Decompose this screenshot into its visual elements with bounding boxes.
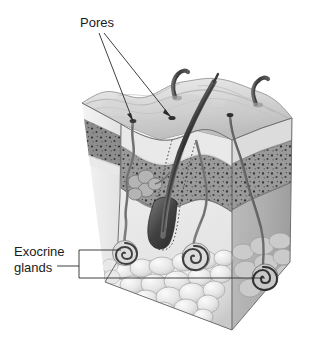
- exocrine-gland-left: [113, 241, 138, 266]
- exocrine-gland-center: [182, 243, 210, 271]
- skin-cross-section-figure: Pores Exocrine glands: [0, 0, 331, 345]
- block-right-face: [232, 118, 292, 330]
- skin-block: [82, 71, 294, 332]
- skin-diagram-svg: Pores Exocrine glands: [0, 0, 331, 345]
- label-pores: Pores: [80, 15, 114, 30]
- pore-surface-far-right: [227, 113, 234, 117]
- label-exocrine-glands-line2: glands: [14, 260, 53, 275]
- label-exocrine-glands-line1: Exocrine: [14, 244, 65, 259]
- pore-surface-right: [168, 116, 175, 120]
- exocrine-gland-right: [252, 264, 278, 290]
